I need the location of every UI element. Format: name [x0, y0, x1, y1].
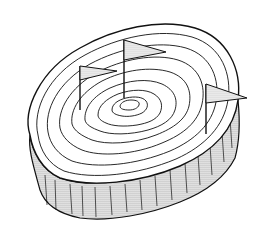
tree-stump-illustration — [0, 0, 266, 237]
illustration — [0, 0, 266, 237]
